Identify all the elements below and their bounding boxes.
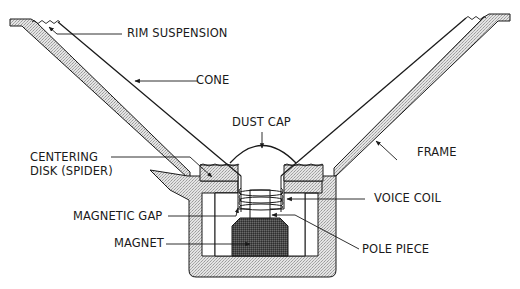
rim-suspension bbox=[32, 17, 486, 24]
label-frame: FRAME bbox=[417, 146, 457, 159]
label-centering-disk-line1: CENTERING bbox=[30, 151, 98, 164]
label-centering-disk-line2: DISK (SPIDER) bbox=[30, 165, 113, 178]
label-rim-suspension: RIM SUSPENSION bbox=[127, 27, 228, 40]
magnet bbox=[232, 218, 288, 256]
label-magnetic-gap: MAGNETIC GAP bbox=[73, 210, 162, 223]
label-magnet: MAGNET bbox=[114, 237, 164, 250]
label-pole-piece: POLE PIECE bbox=[362, 243, 429, 256]
label-cone: CONE bbox=[196, 74, 229, 87]
label-dust-cap: DUST CAP bbox=[232, 116, 291, 129]
dust-cap bbox=[230, 146, 296, 164]
label-voice-coil: VOICE COIL bbox=[374, 192, 441, 205]
